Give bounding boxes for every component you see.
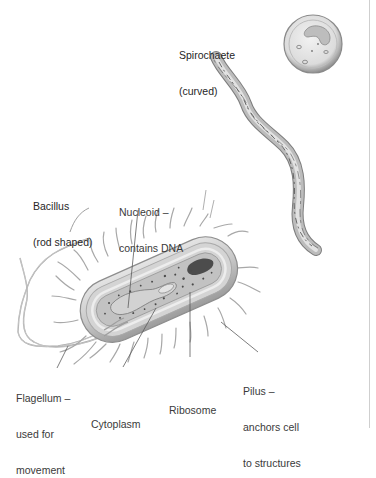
spirochaete-label-line1: Spirochaete — [179, 49, 235, 61]
bacillus-label-line2: (rod shaped) — [33, 236, 93, 248]
ribosome-label: Ribosome — [169, 380, 216, 440]
spirochaete-label: Spirochaete (curved) — [179, 25, 235, 121]
ribosome-label-line1: Ribosome — [169, 404, 216, 416]
flagellum-label-line2: used for — [16, 428, 70, 440]
spirochaete-label-line2: (curved) — [179, 85, 235, 97]
bacillus-label-line1: Bacillus — [33, 200, 93, 212]
cytoplasm-label-line1: Cytoplasm — [91, 418, 141, 430]
nucleoid-label-line1: Nucleoid – — [119, 206, 183, 218]
cytoplasm-label: Cytoplasm — [91, 394, 141, 454]
pilus-label-line2: anchors cell — [243, 421, 301, 433]
flagellum-leader — [57, 346, 68, 368]
pilus-label-line3: to structures — [243, 457, 301, 469]
coccus-cell — [284, 15, 342, 73]
flagellum-label-line1: Flagellum – — [16, 392, 70, 404]
pilus-label: Pilus – anchors cell to structures — [243, 361, 301, 478]
pilus-label-line1: Pilus – — [243, 385, 301, 397]
flagellum-label-line3: movement — [16, 464, 70, 476]
nucleoid-label: Nucleoid – contains DNA — [119, 182, 183, 278]
nucleoid-label-line2: contains DNA — [119, 242, 183, 254]
pilus-leader — [221, 322, 258, 352]
bacillus-label: Bacillus (rod shaped) — [33, 176, 93, 272]
flagellum-label: Flagellum – used for movement — [16, 368, 70, 478]
page-edge-divider — [369, 0, 370, 428]
